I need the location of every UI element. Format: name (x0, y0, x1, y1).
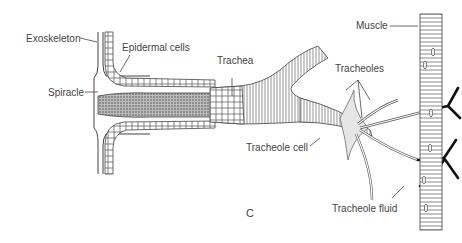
label-tracheole-fluid: Tracheole fluid (332, 204, 397, 214)
muscle-fiber (420, 14, 442, 230)
label-spiracle: Spiracle (48, 88, 84, 98)
label-trachea: Trachea (217, 56, 253, 66)
label-muscle: Muscle (356, 21, 388, 31)
label-tracheole-cell: Tracheole cell (246, 143, 308, 153)
tracheole-cell (340, 90, 368, 160)
spiracle-lumen (98, 93, 212, 117)
panel-letter: C (246, 207, 254, 219)
label-epidermal-cells: Epidermal cells (122, 43, 190, 53)
tracheal-system-diagram: Exoskeleton Epidermal cells Spiracle Tra… (0, 0, 462, 243)
tracheoles (356, 100, 430, 200)
label-exoskeleton: Exoskeleton (26, 34, 80, 44)
label-tracheoles: Tracheoles (335, 64, 384, 74)
